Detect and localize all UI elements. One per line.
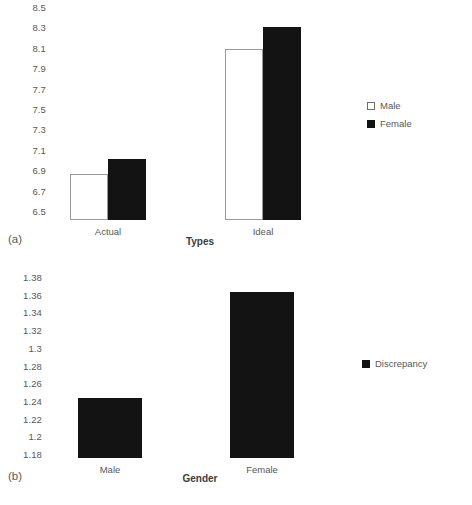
open-square-icon [367, 102, 375, 110]
y-axis-tick-label: 6.7 [32, 187, 46, 197]
y-axis-tick-label: 1.28 [23, 362, 42, 372]
y-axis-tick-label: 1.18 [23, 450, 42, 460]
y-axis-tick-label: 1.24 [23, 397, 42, 407]
legend-panel-b: Discrepancy [362, 358, 427, 376]
filled-square-icon [367, 120, 375, 128]
y-axis-tick-label: 1.38 [23, 273, 42, 283]
y-axis-tick-label: 8.1 [32, 44, 46, 54]
legend-panel-a: MaleFemale [367, 100, 412, 136]
legend-item-female: Female [367, 118, 412, 129]
y-axis-tick-label: 1.34 [23, 308, 42, 318]
plot-area-panel-a: ActualIdeal [50, 8, 350, 220]
y-axis-tick-label: 1.26 [23, 379, 42, 389]
y-axis-tick-label: 7.1 [32, 146, 46, 156]
y-axis-tick-label: 6.9 [32, 166, 46, 176]
legend-item-male: Male [367, 100, 412, 111]
panel-tag-b: (b) [8, 470, 22, 482]
x-axis-title-panel-a: Types [140, 236, 260, 247]
y-axis-tick-label: 8.3 [32, 23, 46, 33]
y-axis-tick-label: 1.32 [23, 326, 42, 336]
y-axis-tick-label: 1.2 [28, 432, 42, 442]
chart-panel-b: 1.381.361.341.321.31.281.261.241.221.21.… [0, 258, 472, 505]
legend-label: Female [380, 118, 412, 129]
chart-panel-a: 8.58.38.17.97.77.57.37.16.96.76.5 Actual… [0, 0, 472, 258]
bar-actual-female [108, 159, 146, 220]
bar-male-discrepancy [78, 398, 142, 458]
filled-square-icon [362, 360, 370, 368]
legend-item-discrepancy: Discrepancy [362, 358, 427, 369]
bar-ideal-male [225, 49, 263, 220]
y-axis-tick-label: 7.3 [32, 125, 46, 135]
y-axis-tick-label: 7.5 [32, 105, 46, 115]
y-axis-tick-label: 7.9 [32, 64, 46, 74]
panel-tag-a: (a) [8, 233, 22, 245]
y-axis-tick-label: 6.5 [32, 207, 46, 217]
y-axis-tick-label: 7.7 [32, 85, 46, 95]
y-axis-tick-label: 1.3 [28, 344, 42, 354]
x-axis-title-panel-b: Gender [140, 473, 260, 484]
legend-label: Discrepancy [375, 358, 427, 369]
y-axis-tick-label: 8.5 [32, 3, 46, 13]
bar-actual-male [70, 174, 108, 220]
bar-female-discrepancy [230, 292, 294, 459]
y-axis-tick-label: 1.36 [23, 291, 42, 301]
legend-label: Male [380, 100, 401, 111]
bar-ideal-female [263, 27, 301, 220]
plot-area-panel-b: MaleFemale [46, 278, 346, 458]
y-axis-tick-label: 1.22 [23, 415, 42, 425]
